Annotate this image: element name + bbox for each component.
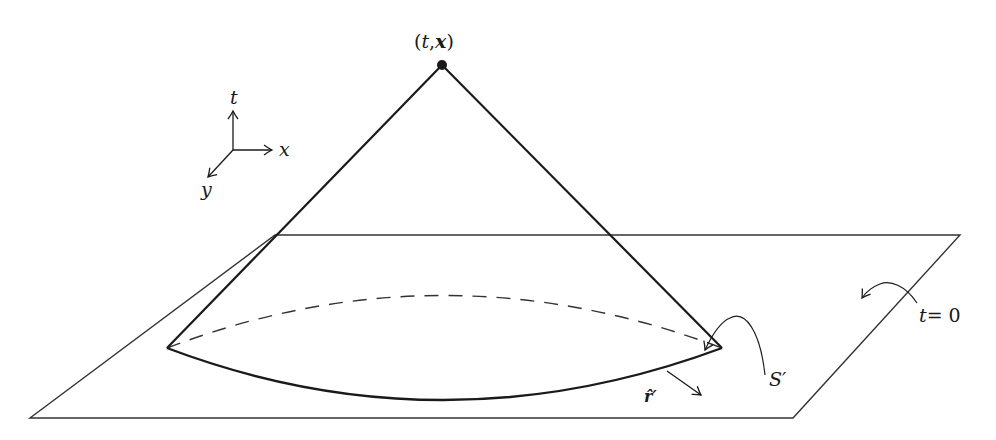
cone-right-edge	[442, 65, 722, 348]
cone-base-back-arc	[167, 296, 722, 349]
y-axis-arrow	[208, 150, 233, 177]
light-cone-diagram: (t,x) t x y t= 0 S′ r̂′	[0, 0, 996, 440]
axes-gizmo	[208, 111, 272, 177]
normal-vector-arrow	[667, 371, 701, 395]
t-axis-label: t	[230, 88, 238, 107]
plane-pointer-curve	[862, 283, 917, 303]
normal-vector-label: r̂′	[644, 389, 657, 405]
event-point	[437, 60, 447, 70]
plane-label: t= 0	[919, 306, 961, 325]
y-axis-label: y	[201, 180, 212, 199]
cone-left-edge	[167, 65, 442, 348]
event-label: (t,x)	[414, 32, 454, 51]
cone-base-front-arc	[167, 348, 722, 400]
x-axis-label: x	[279, 140, 290, 159]
t-zero-plane	[30, 235, 960, 418]
surface-label: S′	[769, 370, 786, 389]
